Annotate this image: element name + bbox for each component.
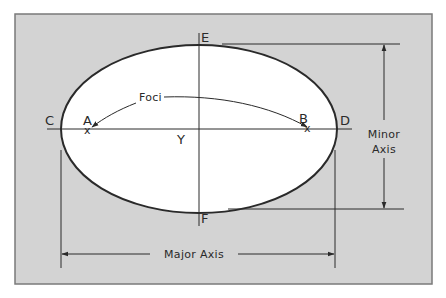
minor-axis-label-line1: Minor: [368, 128, 400, 141]
point-label-c: C: [45, 113, 54, 128]
ellipse-diagram: C A x B x D E F Y Foci Minor Axis Major …: [0, 0, 446, 298]
point-label-f: F: [201, 211, 208, 226]
point-label-d: D: [340, 113, 350, 128]
major-axis-label: Major Axis: [164, 248, 224, 261]
center-label-y: Y: [176, 132, 185, 147]
point-label-e: E: [201, 30, 209, 45]
foci-label: Foci: [139, 91, 162, 104]
minor-axis-label-line2: Axis: [372, 143, 396, 156]
focus-marker-a: x: [84, 124, 91, 137]
focus-marker-b: x: [304, 122, 311, 135]
